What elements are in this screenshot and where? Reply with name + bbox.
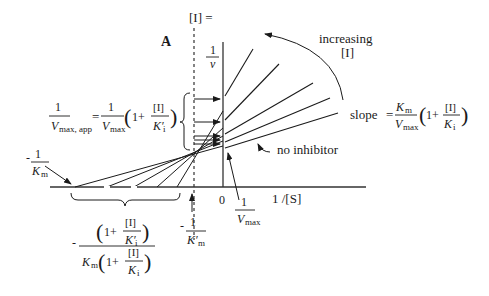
svg-text:[I]: [I] xyxy=(128,246,139,258)
one-over-vmax-arrow xyxy=(228,153,239,200)
svg-text:K: K xyxy=(31,164,41,178)
origin-label: 0 xyxy=(219,193,225,207)
svg-text:[I]: [I] xyxy=(153,101,164,113)
svg-text:slope: slope xyxy=(350,107,378,122)
y-axis-label-den: v xyxy=(210,57,216,71)
svg-text:m: m xyxy=(41,169,48,179)
svg-text:): ) xyxy=(142,219,149,244)
increasing-label-I: [I] xyxy=(341,45,354,60)
svg-text:max: max xyxy=(403,122,419,132)
svg-text:m: m xyxy=(198,238,205,248)
svg-text:1: 1 xyxy=(55,100,61,114)
svg-text:K: K xyxy=(81,255,91,269)
svg-text:[I]: [I] xyxy=(125,216,136,228)
inhibition-lines-right xyxy=(225,49,338,148)
svg-text:m: m xyxy=(405,105,412,115)
svg-text:(: ( xyxy=(124,104,131,129)
panel-label: A xyxy=(161,34,172,49)
minus-one-over-kprime-m-label: - 1 K′ m xyxy=(180,215,206,248)
svg-text:max, app: max, app xyxy=(59,124,92,134)
inhibitor-axis-label: [I] = xyxy=(189,10,213,25)
svg-text:[I]: [I] xyxy=(445,101,456,113)
svg-text:i: i xyxy=(163,124,166,134)
minus-one-over-km-arrow xyxy=(45,166,71,184)
slope-equation: slope = K m V max ( 1+ [I] K i ) xyxy=(350,100,468,132)
svg-text:=: = xyxy=(386,107,393,122)
svg-text:1+: 1+ xyxy=(132,110,145,124)
svg-text:=: = xyxy=(92,109,99,124)
no-inhibitor-arrow xyxy=(258,144,270,152)
vmax-app-equation: 1 V max, app = 1 V max ( 1+ [I] K′ i ) xyxy=(49,100,177,134)
y-axis-label-num: 1 xyxy=(210,43,216,57)
svg-text:K: K xyxy=(127,263,137,277)
svg-text:): ) xyxy=(461,102,468,127)
svg-text:-: - xyxy=(180,219,184,233)
svg-text:1: 1 xyxy=(190,215,196,229)
vmax-app-brace xyxy=(180,93,190,150)
svg-text:-: - xyxy=(26,151,30,165)
svg-text:K: K xyxy=(443,117,453,131)
svg-text:m: m xyxy=(91,260,98,270)
svg-text:1: 1 xyxy=(241,195,247,209)
increasing-label: increasing xyxy=(319,31,373,46)
svg-text:(: ( xyxy=(96,219,103,244)
svg-text:1: 1 xyxy=(35,147,41,161)
svg-text:i: i xyxy=(137,268,140,278)
no-inhibitor-label: no inhibitor xyxy=(277,142,339,157)
x-axis-label: 1 /[S] xyxy=(272,191,301,206)
svg-text:(: ( xyxy=(98,249,105,274)
svg-text:1: 1 xyxy=(108,100,114,114)
svg-text:): ) xyxy=(170,104,177,129)
x-intercepts-equation: - ( 1+ [I] K′ i ) K m ( 1+ [I] K i ) xyxy=(72,216,155,278)
lineweaver-burk-diagram: [I] = A 1 v increasing [I] slope = K m V… xyxy=(0,0,489,296)
svg-text:1+: 1+ xyxy=(426,108,439,122)
svg-text:max: max xyxy=(245,217,261,227)
svg-text:1+: 1+ xyxy=(106,255,119,269)
svg-text:-: - xyxy=(72,236,76,250)
svg-text:K: K xyxy=(395,100,405,114)
svg-text:i: i xyxy=(453,122,456,132)
svg-text:1+: 1+ xyxy=(104,225,117,239)
minus-one-over-km-label: - 1 K m xyxy=(26,147,49,179)
svg-text:): ) xyxy=(144,249,151,274)
x-intercepts-brace xyxy=(71,193,180,206)
svg-text:K′: K′ xyxy=(186,233,198,247)
